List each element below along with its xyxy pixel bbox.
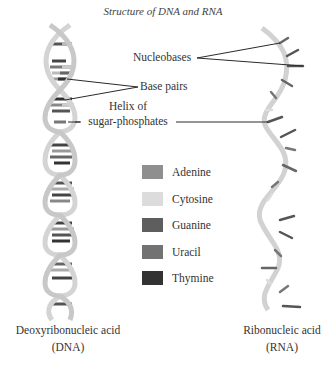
legend-label: Thymine [172, 272, 214, 284]
legend-label: Uracil [172, 246, 201, 258]
pointer-base-pairs-1 [67, 79, 138, 87]
legend-swatch-cytosine [142, 192, 163, 206]
dna-name-line2: (DNA) [0, 341, 136, 353]
pointer-base-pairs-2 [65, 87, 138, 100]
pointer-nucleobases-1 [197, 43, 280, 58]
legend-swatch-guanine [142, 218, 163, 232]
legend-item-adenine: Adenine [142, 164, 211, 180]
legend-item-guanine: Guanine [142, 217, 211, 233]
dna-helix [45, 25, 75, 320]
label-base-pairs: Base pairs [140, 80, 188, 92]
legend-label: Guanine [172, 219, 211, 231]
rna-name-line2: (RNA) [230, 341, 326, 353]
rna-strand [259, 28, 303, 310]
label-helix-line1: Helix of [80, 100, 176, 112]
label-nucleobases: Nucleobases [133, 51, 191, 63]
rna-name-line1: Ribonucleic acid [230, 324, 326, 336]
legend-swatch-uracil [142, 245, 163, 259]
dna-name-line1: Deoxyribonucleic acid [0, 324, 136, 336]
legend-label: Cytosine [172, 193, 213, 205]
legend-swatch-adenine [142, 165, 163, 179]
legend-swatch-thymine [142, 271, 163, 285]
label-helix-line2: sugar-phosphates [80, 115, 176, 127]
legend-item-cytosine: Cytosine [142, 191, 213, 207]
legend-label: Adenine [172, 166, 211, 178]
legend-item-uracil: Uracil [142, 244, 201, 260]
legend-item-thymine: Thymine [142, 270, 214, 286]
